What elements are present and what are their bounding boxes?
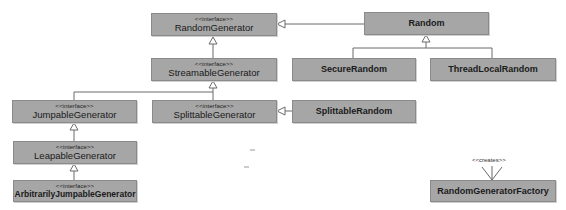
class-streamable-generator[interactable]: <<interface>> StreamableGenerator <box>151 58 277 81</box>
uml-diagram: <<interface>> RandomGenerator Random Sec… <box>0 0 566 210</box>
class-name: JumpableGenerator <box>33 109 117 120</box>
class-random-generator[interactable]: <<interface>> RandomGenerator <box>151 13 277 36</box>
class-jumpable-generator[interactable]: <<interface>> JumpableGenerator <box>12 100 137 123</box>
class-name: SplittableGenerator <box>174 109 256 120</box>
class-name: SplittableRandom <box>316 106 393 117</box>
class-splittable-generator[interactable]: <<interface>> SplittableGenerator <box>152 100 277 123</box>
class-name: Random <box>409 18 445 29</box>
class-name: RandomGeneratorFactory <box>437 186 549 197</box>
class-thread-local-random[interactable]: ThreadLocalRandom <box>430 58 556 81</box>
class-secure-random[interactable]: SecureRandom <box>292 58 416 81</box>
class-name: RandomGenerator <box>175 22 254 33</box>
creates-label: <<creates>> <box>472 157 506 163</box>
class-name: LeapableGenerator <box>34 150 116 161</box>
class-name: ThreadLocalRandom <box>448 64 538 75</box>
class-random-generator-factory[interactable]: RandomGeneratorFactory <box>430 180 556 202</box>
class-splittable-random[interactable]: SplittableRandom <box>292 100 416 123</box>
class-arbitrarily-jumpable-generator[interactable]: <<interface>> ArbitrarilyJumpableGenerat… <box>13 180 137 202</box>
class-name: SecureRandom <box>321 64 387 75</box>
class-name: ArbitrarilyJumpableGenerator <box>15 189 136 200</box>
class-random[interactable]: Random <box>364 12 489 35</box>
class-leapable-generator[interactable]: <<interface>> LeapableGenerator <box>13 141 137 164</box>
class-name: StreamableGenerator <box>168 67 259 78</box>
